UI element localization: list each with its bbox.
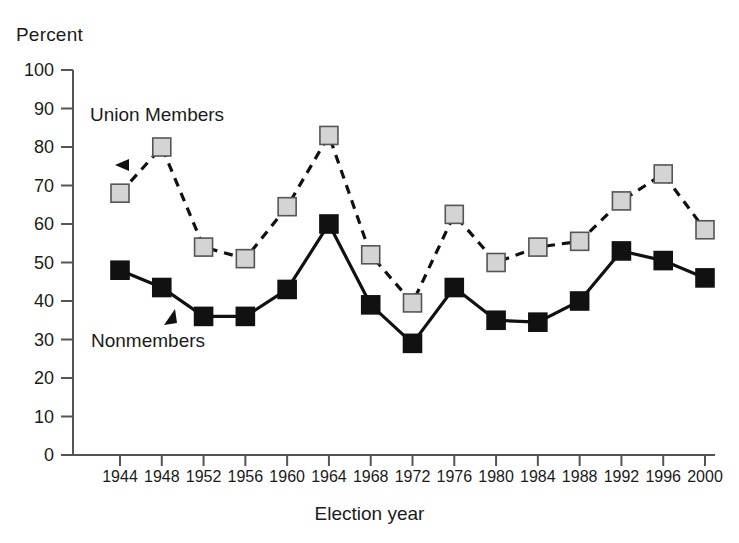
data-point-marker-union-members[interactable] xyxy=(153,138,171,156)
data-point-marker-nonmembers[interactable] xyxy=(362,296,380,314)
data-point-marker-union-members[interactable] xyxy=(320,126,338,144)
nonmembers-pointer-arrow-icon xyxy=(164,309,177,325)
data-point-marker-nonmembers[interactable] xyxy=(111,261,129,279)
data-point-marker-union-members[interactable] xyxy=(195,238,213,256)
data-point-marker-nonmembers[interactable] xyxy=(529,313,547,331)
data-point-marker-nonmembers[interactable] xyxy=(487,311,505,329)
union-members-pointer-arrow-icon xyxy=(115,159,129,171)
data-point-marker-union-members[interactable] xyxy=(236,250,254,268)
data-point-marker-nonmembers[interactable] xyxy=(404,334,422,352)
data-point-marker-nonmembers[interactable] xyxy=(696,269,714,287)
data-point-marker-union-members[interactable] xyxy=(654,165,672,183)
data-point-marker-union-members[interactable] xyxy=(529,238,547,256)
data-point-marker-union-members[interactable] xyxy=(404,294,422,312)
data-point-marker-nonmembers[interactable] xyxy=(153,279,171,297)
data-point-marker-nonmembers[interactable] xyxy=(612,242,630,260)
data-point-marker-nonmembers[interactable] xyxy=(445,279,463,297)
data-point-marker-nonmembers[interactable] xyxy=(571,292,589,310)
data-point-marker-union-members[interactable] xyxy=(571,232,589,250)
data-point-marker-union-members[interactable] xyxy=(445,205,463,223)
series-label-union-members: Union Members xyxy=(90,104,224,126)
data-point-marker-union-members[interactable] xyxy=(278,198,296,216)
data-point-marker-union-members[interactable] xyxy=(612,192,630,210)
data-point-marker-union-members[interactable] xyxy=(362,246,380,264)
data-point-marker-union-members[interactable] xyxy=(696,221,714,239)
series-line-union-members xyxy=(120,135,705,302)
data-point-marker-nonmembers[interactable] xyxy=(236,307,254,325)
data-point-marker-nonmembers[interactable] xyxy=(654,252,672,270)
x-axis-title: Election year xyxy=(0,503,739,525)
series-label-nonmembers: Nonmembers xyxy=(91,330,205,352)
plot-area xyxy=(0,0,739,543)
data-point-marker-union-members[interactable] xyxy=(111,184,129,202)
data-point-marker-nonmembers[interactable] xyxy=(195,307,213,325)
data-point-marker-nonmembers[interactable] xyxy=(278,280,296,298)
chart-container: Percent 0102030405060708090100 194419481… xyxy=(0,0,739,543)
data-point-marker-nonmembers[interactable] xyxy=(320,215,338,233)
data-point-marker-union-members[interactable] xyxy=(487,254,505,272)
